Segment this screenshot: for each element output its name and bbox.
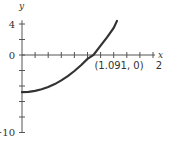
tick-labels: 40−102 — [0, 19, 162, 139]
x-tick-label: 2 — [156, 60, 162, 71]
function-curve — [22, 21, 117, 92]
y-axis-label: y — [18, 1, 25, 11]
y-tick-label: 0 — [9, 50, 15, 61]
axes — [22, 20, 155, 132]
y-tick-label: 4 — [9, 19, 15, 30]
ticks — [19, 24, 153, 133]
chart: 40−102 (1.091, 0) x y — [0, 0, 177, 145]
x-axis-label: x — [158, 50, 163, 60]
root-annotation: (1.091, 0) — [94, 60, 143, 71]
y-tick-label: −10 — [0, 127, 15, 138]
